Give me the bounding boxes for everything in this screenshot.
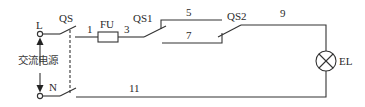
wire-9 bbox=[241, 25, 326, 51]
wire-3-label: 3 bbox=[124, 23, 130, 35]
wire-11-label: 11 bbox=[129, 82, 140, 94]
main-switch-label: QS bbox=[59, 12, 73, 24]
wire-11 bbox=[76, 71, 326, 97]
switch-2-blade bbox=[218, 25, 241, 37]
terminal-n-label: N bbox=[49, 81, 57, 93]
wire-7-label: 7 bbox=[186, 29, 192, 41]
lamp-icon bbox=[316, 51, 336, 71]
lamp-label: EL bbox=[339, 55, 353, 67]
fuse-icon bbox=[98, 32, 118, 42]
main-switch-upper-pole bbox=[43, 26, 76, 34]
terminal-l-label: L bbox=[36, 19, 43, 31]
terminal-l-icon bbox=[37, 31, 42, 36]
fuse-label: FU bbox=[100, 18, 114, 30]
wire-1-label: 1 bbox=[87, 23, 93, 35]
source-label: 交流电源 bbox=[18, 54, 59, 66]
switch-2-label: QS2 bbox=[227, 10, 247, 22]
circuit-diagram: L N 交流电源 QS 1 FU 3 QS1 5 7 QS2 9 EL 11 bbox=[0, 0, 365, 107]
arrow-down-icon bbox=[37, 73, 44, 93]
main-switch-lower-pole bbox=[43, 88, 76, 96]
wire-5-label: 5 bbox=[186, 6, 192, 18]
wire-9-label: 9 bbox=[280, 7, 286, 19]
switch-1-label: QS1 bbox=[133, 12, 153, 24]
switch-1-blade bbox=[144, 26, 166, 37]
wire-5 bbox=[161, 20, 222, 29]
wire-7 bbox=[162, 33, 222, 43]
terminal-n-icon bbox=[37, 93, 42, 98]
